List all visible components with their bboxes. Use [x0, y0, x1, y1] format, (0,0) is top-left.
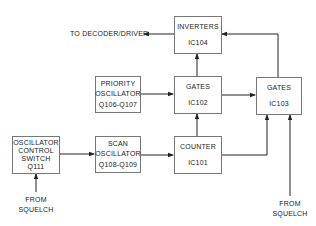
gates-103-id: IC103 — [269, 100, 289, 108]
osc-control-line2: CONTROL — [18, 147, 54, 155]
from-squelch-left-line2: SQUELCH — [18, 206, 54, 214]
counter-block: COUNTER IC101 — [174, 136, 222, 174]
priority-osc-id: Q106-Q107 — [99, 101, 137, 109]
priority-osc-line2: OSCILLATOR — [95, 90, 141, 98]
scan-oscillator-block: SCAN OSCILLATOR Q108-Q109 — [95, 136, 141, 173]
oscillator-control-switch-block: OSCILLATOR CONTROL SWITCH Q111 — [12, 136, 60, 174]
priority-osc-line1: PRIORITY — [101, 80, 136, 88]
to-decoder-driver-label: TO DECODER/DRIVER — [70, 30, 148, 38]
scan-osc-line2: OSCILLATOR — [95, 150, 141, 158]
osc-control-line3: SWITCH — [22, 155, 51, 163]
gates-102-id: IC102 — [188, 99, 208, 107]
osc-control-id: Q111 — [28, 163, 45, 171]
counter-id: IC101 — [188, 159, 208, 167]
gates-102-title: GATES — [186, 83, 210, 91]
from-squelch-left-line1: FROM — [18, 196, 54, 204]
from-squelch-right-label: FROM SQUELCH — [272, 200, 308, 218]
from-squelch-left-label: FROM SQUELCH — [18, 196, 54, 214]
counter-title: COUNTER — [180, 143, 216, 151]
gates-ic103-block: GATES IC103 — [256, 77, 302, 115]
inverters-title: INVERTERS — [177, 23, 219, 31]
from-squelch-right-line2: SQUELCH — [272, 210, 308, 218]
scan-osc-id: Q108-Q109 — [99, 161, 137, 169]
gates-103-title: GATES — [267, 84, 291, 92]
from-squelch-right-line1: FROM — [272, 200, 308, 208]
inverters-id: IC104 — [188, 39, 208, 47]
scan-osc-line1: SCAN — [108, 140, 128, 148]
osc-control-line1: OSCILLATOR — [13, 139, 59, 147]
inverters-block: INVERTERS IC104 — [174, 16, 222, 54]
priority-oscillator-block: PRIORITY OSCILLATOR Q106-Q107 — [95, 76, 141, 113]
gates-ic102-block: GATES IC102 — [174, 76, 222, 114]
